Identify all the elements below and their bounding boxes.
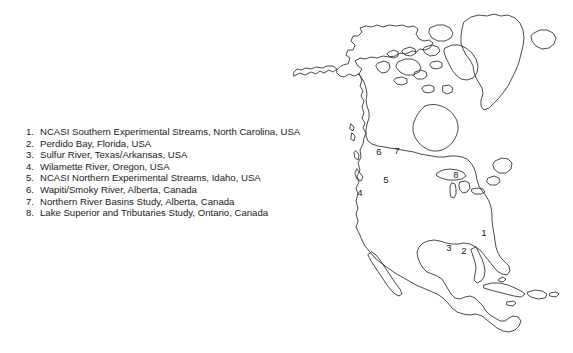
legend-item-label: Perdido Bay, Florida, USA: [40, 138, 326, 150]
legend-item-label: Wapiti/Smoky River, Alberta, Canada: [40, 184, 326, 196]
vancouver-island: [355, 169, 363, 181]
legend-item-label: NCASI Northern Experimental Streams, Ida…: [40, 172, 326, 184]
queen-charlotte-islands: [354, 151, 359, 160]
map-marker-5: 5: [383, 175, 388, 185]
map-marker-2: 2: [461, 246, 466, 256]
iceland: [531, 30, 556, 49]
lake-michigan: [450, 183, 456, 198]
legend-item-label: Northern River Basins Study, Alberta, Ca…: [40, 196, 326, 208]
coastal-island-a: [351, 133, 355, 141]
legend-item: 4. Wilamette River, Oregon, USA: [26, 161, 326, 173]
site-legend: 1. NCASI Southern Experimental Streams, …: [26, 126, 326, 219]
legend-item-number: 1.: [26, 126, 40, 138]
map-marker-7: 7: [394, 146, 399, 156]
arctic-island-c: [414, 70, 427, 79]
hudson-bay: [413, 105, 458, 152]
newfoundland-island: [493, 158, 512, 173]
map-marker-6: 6: [376, 147, 381, 157]
victoria-island: [396, 59, 421, 75]
legend-item: 7. Northern River Basins Study, Alberta,…: [26, 196, 326, 208]
legend-item-number: 3.: [26, 149, 40, 161]
legend-item: 1. NCASI Southern Experimental Streams, …: [26, 126, 326, 138]
greenland: [461, 14, 524, 110]
figure-canvas: 1. NCASI Southern Experimental Streams, …: [0, 0, 573, 353]
legend-item-number: 8.: [26, 207, 40, 219]
legend-item: 5. NCASI Northern Experimental Streams, …: [26, 172, 326, 184]
mainland-outline: [294, 66, 337, 76]
west-coast-and-mexico: [356, 74, 521, 332]
arctic-island-d: [394, 77, 407, 85]
lake-superior: [437, 169, 466, 180]
puerto-rico: [550, 292, 559, 297]
legend-item-label: Wilamette River, Oregon, USA: [40, 161, 326, 173]
map-marker-1: 1: [481, 228, 486, 238]
hispaniola: [528, 290, 547, 299]
legend-item: 2. Perdido Bay, Florida, USA: [26, 138, 326, 150]
alaska-outline: [337, 25, 433, 77]
arctic-island-g: [443, 85, 453, 94]
bahamas: [499, 277, 506, 282]
map-marker-3: 3: [446, 243, 451, 253]
lake-erie-ontario: [472, 188, 485, 194]
banks-island: [376, 61, 390, 73]
coastal-island-b: [350, 124, 354, 131]
legend-item-number: 4.: [26, 161, 40, 173]
jamaica: [507, 301, 516, 306]
devon-island: [423, 45, 440, 56]
arctic-island-e: [430, 61, 442, 69]
legend-item-number: 6.: [26, 184, 40, 196]
legend-item: 3. Sulfur River, Texas/Arkansas, USA: [26, 149, 326, 161]
legend-item-label: Sulfur River, Texas/Arkansas, USA: [40, 149, 326, 161]
baffin-island: [444, 45, 478, 80]
map-marker-8: 8: [453, 170, 458, 180]
legend-item-number: 7.: [26, 196, 40, 208]
cuba: [484, 283, 525, 297]
nova-scotia: [487, 176, 500, 185]
legend-item: 8. Lake Superior and Tributaries Study, …: [26, 207, 326, 219]
ellesmere-island: [429, 25, 453, 41]
florida-peninsula: [471, 247, 485, 283]
lake-huron: [459, 181, 470, 193]
legend-item-number: 2.: [26, 138, 40, 150]
legend-item-number: 5.: [26, 172, 40, 184]
legend-item: 6. Wapiti/Smoky River, Alberta, Canada: [26, 184, 326, 196]
legend-item-label: NCASI Southern Experimental Streams, Nor…: [40, 126, 326, 138]
legend-item-label: Lake Superior and Tributaries Study, Ont…: [40, 207, 326, 219]
arctic-island-f: [422, 85, 434, 93]
map-marker-4: 4: [357, 188, 362, 198]
